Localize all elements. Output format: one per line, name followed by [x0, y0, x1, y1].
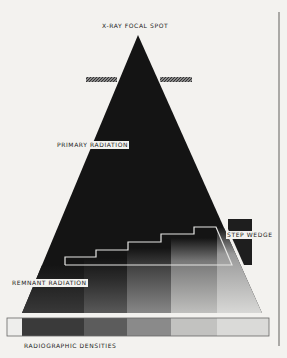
- label-step-wedge: STEP WEDGE: [226, 231, 274, 239]
- label-remnant-radiation: REMNANT RADIATION: [11, 279, 88, 287]
- collimator-right: [160, 77, 192, 82]
- label-radiographic-densities: RADIOGRAPHIC DENSITIES: [24, 342, 117, 350]
- diagram-svg: [0, 0, 287, 358]
- label-primary-radiation: PRIMARY RADIATION: [56, 141, 129, 149]
- collimator-left: [86, 77, 117, 82]
- label-focal-spot: X-RAY FOCAL SPOT: [102, 22, 168, 30]
- diagram-page: X-RAY FOCAL SPOT PRIMARY RADIATION STEP …: [0, 0, 287, 358]
- radiographic-densities-bar: [7, 318, 269, 336]
